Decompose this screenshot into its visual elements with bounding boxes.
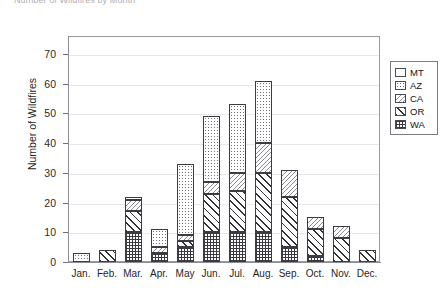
legend-item-ca[interactable]: CA (395, 92, 434, 104)
y-tick-label: 30 (22, 168, 56, 178)
bar-segment-or[interactable] (99, 250, 116, 262)
legend-item-wa[interactable]: WA (395, 118, 434, 130)
bar-segment-wa[interactable] (307, 256, 324, 262)
bar-segment-or[interactable] (229, 191, 246, 233)
bar-segment-ca[interactable] (333, 226, 350, 238)
bar-segment-ca[interactable] (255, 143, 272, 173)
chart-legend[interactable]: MTAZCAORWA (390, 61, 438, 135)
bar-group[interactable] (99, 36, 116, 262)
bar-segment-ca[interactable] (203, 182, 220, 194)
legend-swatch-ca-icon (395, 94, 406, 103)
legend-label: CA (410, 94, 423, 103)
legend-swatch-mt-icon (395, 68, 406, 77)
y-tick-label: 50 (22, 108, 56, 118)
bars-layer (68, 36, 380, 262)
bar-segment-or[interactable] (203, 194, 220, 233)
bar-segment-az[interactable] (125, 197, 142, 200)
bar-group[interactable] (307, 36, 324, 262)
y-tick-label: 0 (22, 257, 56, 267)
bar-segment-ca[interactable] (281, 170, 298, 197)
x-axis-line (68, 262, 381, 263)
wildfires-stacked-bar-chart: Number of Wildfires by Month Number of W… (0, 0, 448, 300)
bar-group[interactable] (281, 36, 298, 262)
legend-label: MT (410, 68, 424, 77)
bar-group[interactable] (203, 36, 220, 262)
bar-segment-ca[interactable] (177, 235, 194, 241)
bar-segment-or[interactable] (281, 197, 298, 248)
bar-segment-wa[interactable] (203, 232, 220, 262)
y-tick-label: 70 (22, 49, 56, 59)
bar-segment-wa[interactable] (125, 232, 142, 262)
bar-segment-az[interactable] (255, 81, 272, 143)
chart-title: Number of Wildfires by Month (14, 0, 135, 5)
y-tick-label: 60 (22, 79, 56, 89)
bar-segment-or[interactable] (255, 173, 272, 232)
y-tick-label: 10 (22, 227, 56, 237)
bar-segment-az[interactable] (73, 253, 90, 262)
bar-segment-ca[interactable] (151, 247, 168, 253)
bar-segment-ca[interactable] (125, 200, 142, 212)
bar-segment-or[interactable] (307, 229, 324, 256)
bar-group[interactable] (177, 36, 194, 262)
bar-group[interactable] (151, 36, 168, 262)
legend-label: OR (410, 107, 424, 116)
bar-group[interactable] (229, 36, 246, 262)
legend-swatch-or-icon (395, 107, 406, 116)
bar-segment-wa[interactable] (229, 232, 246, 262)
bar-segment-or[interactable] (333, 238, 350, 262)
legend-swatch-wa-icon (395, 120, 406, 129)
y-axis-title: Number of Wildfires (26, 44, 38, 204)
bar-segment-wa[interactable] (151, 253, 168, 262)
bar-segment-wa[interactable] (255, 232, 272, 262)
legend-label: AZ (410, 81, 422, 90)
bar-segment-az[interactable] (177, 164, 194, 235)
y-tick-label: 20 (22, 198, 56, 208)
bar-group[interactable] (73, 36, 90, 262)
legend-swatch-az-icon (395, 81, 406, 90)
bar-segment-wa[interactable] (177, 247, 194, 262)
x-tick-label: Dec. (349, 268, 385, 279)
bar-segment-or[interactable] (177, 241, 194, 247)
legend-item-az[interactable]: AZ (395, 79, 434, 91)
bar-segment-az[interactable] (151, 229, 168, 247)
bar-group[interactable] (359, 36, 376, 262)
bar-segment-az[interactable] (229, 104, 246, 172)
legend-item-or[interactable]: OR (395, 105, 434, 117)
bar-segment-or[interactable] (359, 250, 376, 262)
legend-item-mt[interactable]: MT (395, 66, 434, 78)
bar-segment-az[interactable] (203, 116, 220, 181)
bar-segment-ca[interactable] (307, 217, 324, 229)
bar-group[interactable] (255, 36, 272, 262)
bar-group[interactable] (125, 36, 142, 262)
bar-segment-ca[interactable] (229, 173, 246, 191)
y-tick-label: 40 (22, 138, 56, 148)
bar-segment-or[interactable] (125, 211, 142, 232)
bar-segment-wa[interactable] (281, 247, 298, 262)
bar-group[interactable] (333, 36, 350, 262)
legend-label: WA (410, 120, 425, 129)
